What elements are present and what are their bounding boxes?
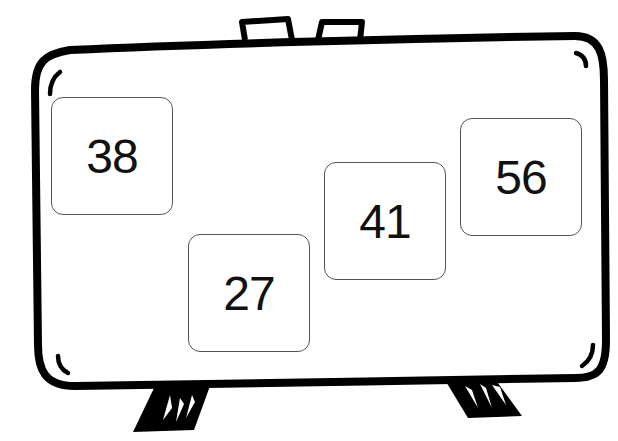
number-card: 38 <box>51 97 173 215</box>
number-card-value: 56 <box>495 150 546 205</box>
number-card-value: 41 <box>359 194 410 249</box>
number-card: 41 <box>324 162 446 280</box>
number-card-value: 27 <box>223 266 274 321</box>
number-card-value: 38 <box>86 129 137 184</box>
number-card: 56 <box>460 118 582 236</box>
number-card: 27 <box>188 234 310 352</box>
